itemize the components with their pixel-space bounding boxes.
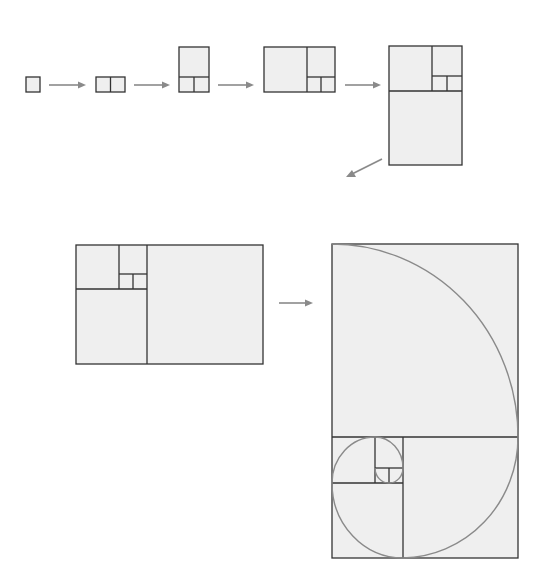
step-5-five-squares	[389, 46, 462, 165]
arrow-step2-to-step3	[134, 82, 170, 89]
arrow-step1-to-step2	[49, 82, 86, 89]
step-3-three-squares	[179, 47, 209, 92]
step-1-single-square	[26, 77, 40, 92]
arrow-step4-to-step5	[345, 82, 381, 89]
step-4-four-squares	[264, 47, 335, 92]
step-6-six-squares	[76, 245, 263, 364]
arrow-step3-to-step4	[218, 82, 254, 89]
arrow-step5-to-step6	[346, 159, 382, 177]
step-2-two-squares	[96, 77, 125, 92]
step-7-golden-spiral	[332, 244, 518, 558]
fibonacci-diagram	[0, 0, 545, 580]
arrow-step6-to-step7	[279, 300, 313, 307]
